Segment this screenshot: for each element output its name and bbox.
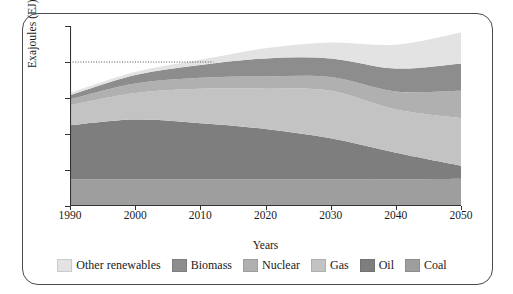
x-tick-label: 2010 [177,209,223,221]
legend-label: Coal [424,258,447,273]
legend-swatch-icon [172,259,187,272]
legend-item-oil[interactable]: Oil [360,258,394,273]
area-series-group [70,32,461,206]
legend-label: Nuclear [262,258,300,273]
legend-swatch-icon [360,259,375,272]
legend-label: Other renewables [76,258,160,273]
legend-item-other-renewables[interactable]: Other renewables [57,258,160,273]
x-tick-label: 1990 [47,209,93,221]
x-tick-mark [266,206,267,210]
x-tick-label: 2000 [112,209,158,221]
x-tick-mark [331,206,332,210]
legend-item-biomass[interactable]: Biomass [172,258,232,273]
y-tick-mark [65,134,70,135]
x-tick-label: 2030 [308,209,354,221]
x-tick-label: 2020 [243,209,289,221]
y-tick-mark [65,170,70,171]
x-tick-mark [70,206,71,210]
y-tick-mark [65,26,70,27]
plot-area: Exajoules (EJ) 050100150200250 199020002… [70,26,461,206]
legend-item-nuclear[interactable]: Nuclear [243,258,300,273]
legend-label: Biomass [191,258,232,273]
x-tick-mark [200,206,201,210]
y-tick-mark [65,98,70,99]
legend-swatch-icon [405,259,420,272]
legend-item-coal[interactable]: Coal [405,258,447,273]
y-axis-title: Exajoules (EJ) [26,0,38,68]
chart-screenshot: Exajoules (EJ) 050100150200250 199020002… [0,0,513,294]
x-tick-mark [396,206,397,210]
y-tick-mark [65,62,70,63]
legend-label: Gas [330,258,349,273]
area-coal [70,179,461,206]
stacked-area-svg [70,26,461,206]
legend-swatch-icon [243,259,258,272]
legend-swatch-icon [57,259,72,272]
legend-swatch-icon [311,259,326,272]
x-tick-label: 2050 [438,209,484,221]
x-tick-label: 2040 [373,209,419,221]
legend-label: Oil [379,258,394,273]
x-tick-mark [461,206,462,210]
x-axis-title: Years [70,239,461,251]
x-tick-mark [135,206,136,210]
chart-legend: Other renewablesBiomassNuclearGasOilCoal [30,258,485,273]
legend-item-gas[interactable]: Gas [311,258,349,273]
